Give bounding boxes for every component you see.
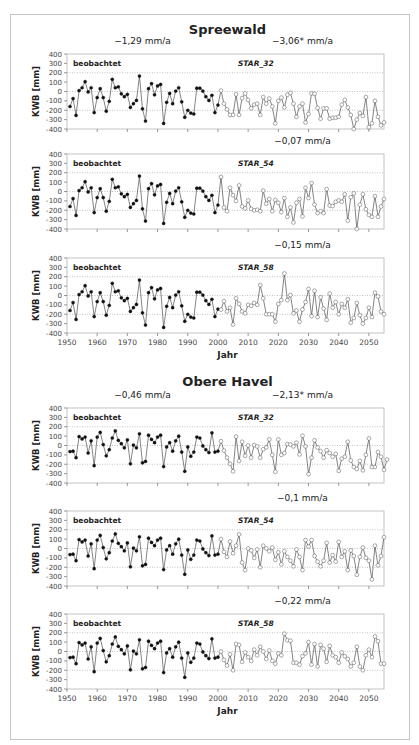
y-tick-label: -200 <box>46 461 62 469</box>
projection-trend-label: −3,06* mm/a <box>272 36 333 46</box>
observed-point <box>96 96 99 99</box>
observed-point <box>120 192 123 195</box>
observed-point <box>77 293 80 296</box>
projected-point <box>237 113 241 117</box>
observed-point <box>138 174 141 177</box>
observed-point <box>99 431 102 434</box>
observed-point <box>150 644 153 647</box>
observed-point <box>204 195 207 198</box>
projected-point <box>319 295 323 299</box>
observed-point <box>123 446 126 449</box>
projected-point <box>307 545 311 549</box>
projected-point <box>382 662 386 666</box>
observed-point <box>159 640 162 643</box>
projected-point <box>310 314 314 318</box>
observed-point <box>144 219 147 222</box>
observed-point <box>156 84 159 87</box>
observed-point <box>213 111 216 114</box>
projected-point <box>313 203 317 207</box>
projected-point <box>340 200 344 204</box>
projected-point <box>382 121 386 125</box>
observed-point <box>201 547 204 550</box>
projected-point <box>373 194 377 198</box>
observed-label: beobachtet <box>73 413 121 422</box>
observed-point <box>165 548 168 551</box>
projected-point <box>231 668 235 672</box>
observed-point <box>153 647 156 650</box>
observed-point <box>138 278 141 281</box>
projected-point <box>355 645 359 649</box>
projection-trend-label: −0,07 mm/a <box>274 136 331 146</box>
observed-point <box>108 304 111 307</box>
y-tick-label: -100 <box>46 301 62 309</box>
observed-point <box>111 642 114 645</box>
observed-point <box>93 315 96 318</box>
projected-point <box>349 321 353 325</box>
projected-point <box>261 95 265 99</box>
projected-point <box>228 462 232 466</box>
projected-point <box>289 559 293 563</box>
y-tick-label: 200 <box>49 169 62 177</box>
observed-point <box>168 647 171 650</box>
observed-point <box>192 212 195 215</box>
observed-point <box>153 93 156 96</box>
y-tick-label: -400 <box>46 330 62 338</box>
projected-point <box>255 303 259 307</box>
observed-point <box>80 86 83 89</box>
observed-point <box>114 532 117 535</box>
observed-point <box>171 202 174 205</box>
observed-point <box>207 451 210 454</box>
observed-point <box>105 454 108 457</box>
observed-point <box>210 298 213 301</box>
x-tick-label: 1950 <box>57 694 76 703</box>
observed-point <box>96 435 99 438</box>
observed-point <box>74 214 77 217</box>
observed-point <box>198 642 201 645</box>
observed-point <box>99 87 102 90</box>
projected-point <box>261 650 265 654</box>
observed-point <box>138 74 141 77</box>
projected-point <box>367 559 371 563</box>
observed-point <box>132 102 135 105</box>
projected-point <box>279 298 283 302</box>
observed-point <box>93 464 96 467</box>
projected-point <box>382 197 386 201</box>
projected-point <box>279 210 283 214</box>
projected-point <box>301 654 305 658</box>
scenario-label: STAR_58 <box>238 263 274 272</box>
y-tick-label: 200 <box>49 526 62 534</box>
projected-point <box>352 661 356 665</box>
projected-point <box>234 199 238 203</box>
projected-point <box>307 287 311 291</box>
observed-point <box>180 450 183 453</box>
observed-point <box>183 320 186 323</box>
observed-point <box>150 182 153 185</box>
observed-point <box>144 460 147 463</box>
projected-point <box>355 467 359 471</box>
projected-point <box>301 308 305 312</box>
observed-point <box>204 299 207 302</box>
y-tick-label: -400 <box>46 226 62 234</box>
projected-point <box>219 650 223 654</box>
projected-point <box>367 648 371 652</box>
observed-point <box>87 90 90 93</box>
projected-point <box>304 538 308 542</box>
projected-point <box>276 99 280 103</box>
projected-point <box>316 106 320 110</box>
projection-trend-label: −2,13* mm/a <box>272 390 333 400</box>
projected-point <box>264 547 268 551</box>
projected-point <box>252 556 256 560</box>
observed-point <box>174 89 177 92</box>
projected-point <box>279 653 283 657</box>
projected-point <box>343 654 347 658</box>
x-tick-label: 2020 <box>269 694 288 703</box>
observed-point <box>216 553 219 556</box>
projected-point <box>237 302 241 306</box>
projected-point <box>364 556 368 560</box>
projected-point <box>225 456 229 460</box>
observed-point <box>150 82 153 85</box>
observed-point <box>123 652 126 655</box>
projected-point <box>231 469 235 473</box>
observed-point <box>132 649 135 652</box>
projected-point <box>346 106 350 110</box>
